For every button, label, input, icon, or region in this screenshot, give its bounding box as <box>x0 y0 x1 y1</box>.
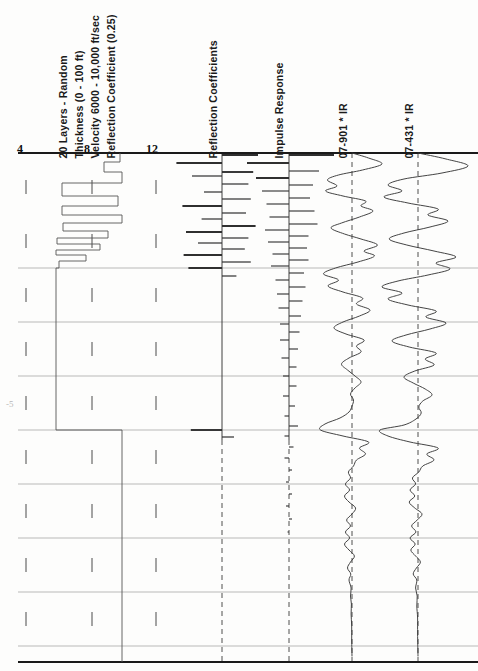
seismic-trace <box>319 153 382 656</box>
axis-number-4: 4 <box>17 143 23 155</box>
column-label-impulse-response: Impulse Response <box>274 63 285 159</box>
axis-number-8: 8 <box>84 143 90 155</box>
axis-number-12: 12 <box>146 143 158 155</box>
caption-velocity: Velocity 6000 - 10,000 ft/sec <box>90 15 101 159</box>
caption-reflection-coefficient: Reflection Coefficient (0.25) <box>106 14 117 158</box>
seismogram-figure: 20 Layers - Random Thickness (0 - 100 ft… <box>0 0 478 671</box>
column-label-reflection-coefficients: Reflection Coefficients <box>208 40 219 158</box>
velocity-log-staircase <box>56 153 122 662</box>
caption-thickness: Thickness (0 - 100 ft) <box>74 50 85 158</box>
convolved-traces-group <box>319 153 468 656</box>
column-label-trace-07-901: 07-901 * IR <box>338 103 349 158</box>
impulse-response-spikes <box>247 155 334 532</box>
column-label-trace-07-431: 07-431 * IR <box>404 103 415 158</box>
caption-layers: 20 Layers - Random <box>58 55 69 158</box>
grid-tick-marks-group <box>26 180 156 626</box>
panel-dashed-axes-group <box>222 153 418 662</box>
border-rules-group <box>18 153 478 662</box>
grid-lines-group <box>18 268 478 646</box>
seismic-trace <box>379 153 468 656</box>
reflection-coefficients-spikes <box>176 155 258 437</box>
velocity-log-curve <box>56 153 122 662</box>
margin-note: -5 <box>6 400 14 409</box>
